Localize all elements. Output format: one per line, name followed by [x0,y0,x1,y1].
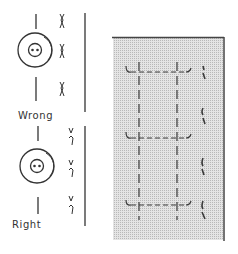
cross-stitch-icon [60,44,64,58]
right-panel [20,126,85,226]
sewing-diagram [0,0,238,254]
stitch-icon [69,196,73,214]
stitch-icon [69,128,73,145]
stitch-icon [69,160,73,177]
wrong-label: Wrong [18,110,53,121]
cross-stitch-icon [60,82,64,96]
fabric-swatch [112,37,224,241]
cross-stitch-icon [60,14,64,28]
right-label: Right [12,219,41,230]
button-icon [20,149,54,183]
wrong-panel [18,13,85,112]
button-icon [18,33,52,67]
